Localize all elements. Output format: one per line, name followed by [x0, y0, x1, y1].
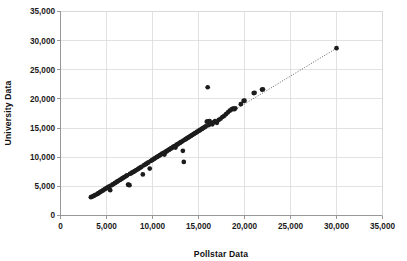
data-point [252, 90, 257, 95]
x-tick-label: 25,000 [278, 222, 303, 231]
y-tick-label: 25,000 [30, 66, 55, 75]
y-tick-label: 0 [50, 211, 55, 220]
chart-canvas: 05,00010,00015,00020,00025,00030,00035,0… [0, 0, 407, 261]
data-point [147, 166, 152, 171]
y-tick-label: 10,000 [30, 153, 55, 162]
x-tick-label: 10,000 [140, 222, 165, 231]
data-point [334, 46, 339, 51]
y-tick-label: 20,000 [30, 95, 55, 104]
y-tick-label: 15,000 [30, 124, 55, 133]
y-tick-label: 5,000 [35, 182, 56, 191]
y-tick-label: 35,000 [30, 7, 55, 16]
y-axis-tick-labels: 05,00010,00015,00020,00025,00030,00035,0… [30, 7, 55, 220]
data-point [261, 87, 266, 92]
y-tick-label: 30,000 [30, 37, 55, 46]
x-tick-label: 20,000 [232, 222, 257, 231]
x-axis-title: Pollstar Data [194, 249, 249, 259]
y-axis-title: University Data [3, 81, 13, 146]
scatter-chart: 05,00010,00015,00020,00025,00030,00035,0… [0, 0, 407, 261]
data-point [205, 85, 210, 90]
data-point [140, 172, 145, 177]
data-points [89, 46, 339, 200]
data-point [127, 183, 132, 188]
x-tick-label: 0 [58, 222, 63, 231]
x-tick-label: 35,000 [370, 222, 395, 231]
data-point [233, 106, 238, 111]
x-tick-label: 5,000 [96, 222, 117, 231]
x-tick-label: 30,000 [324, 222, 349, 231]
data-point [181, 148, 186, 153]
data-point [242, 98, 247, 103]
data-point [108, 188, 113, 193]
data-point [181, 160, 186, 165]
x-tick-label: 15,000 [186, 222, 211, 231]
x-axis-tick-labels: 05,00010,00015,00020,00025,00030,00035,0… [58, 222, 395, 231]
